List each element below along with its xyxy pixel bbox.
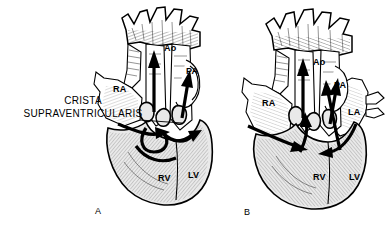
- label-ra-b: RA: [262, 99, 275, 108]
- label-lv-a: LV: [188, 171, 199, 180]
- annotation-crista-line2: SUPRAVENTRICULARIS: [18, 109, 148, 119]
- label-pa-a: PA: [186, 67, 198, 76]
- panel-b-svc: [272, 50, 289, 94]
- label-ra-a: RA: [113, 85, 126, 94]
- panel-caption-a: A: [95, 207, 101, 216]
- panel-caption-b: B: [244, 208, 250, 217]
- panel-a-great-vessels: [122, 7, 200, 50]
- label-la-b: LA: [348, 108, 360, 117]
- label-pa-b: PA: [334, 81, 346, 90]
- label-ao-b: Ao: [313, 58, 325, 67]
- label-rv-b: RV: [313, 173, 326, 182]
- label-rv-a: RV: [158, 174, 171, 183]
- panel-a-svc: [124, 44, 141, 88]
- heart-anatomy-figure: Ao PA RA RV LV CRISTA SUPRAVENTRICULARIS…: [0, 0, 387, 235]
- label-lv-b: LV: [349, 173, 360, 182]
- annotation-crista-line1: CRISTA: [18, 96, 148, 106]
- panel-b-great-vessels: [266, 9, 352, 56]
- label-ao-a: Ao: [164, 44, 176, 53]
